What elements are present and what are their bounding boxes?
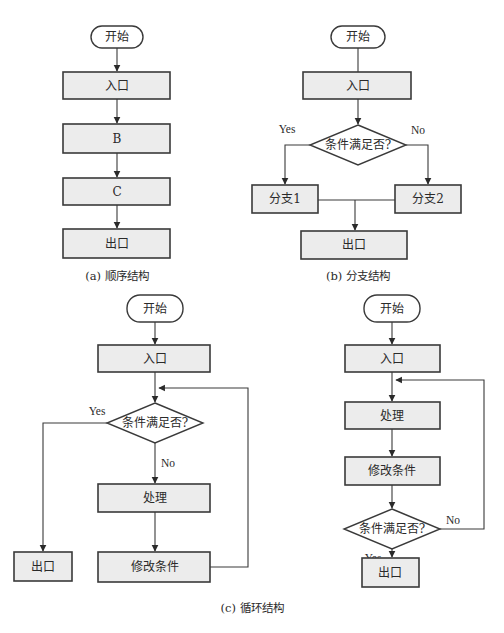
entry-label: 入口	[105, 79, 129, 93]
branch-diagram: 开始 入口 条件满足否? Yes No 分支1 分支2 出口 (b) 分支结构	[252, 26, 461, 283]
exit-label: 出口	[105, 237, 129, 251]
entry-label: 入口	[143, 352, 167, 366]
yes-label: Yes	[89, 405, 106, 417]
caption-sequence: (a) 顺序结构	[85, 269, 149, 283]
entry-label: 入口	[380, 352, 404, 366]
start-label: 开始	[380, 302, 404, 316]
sequence-diagram: 开始 入口 B C 出口 (a) 顺序结构	[63, 26, 170, 283]
process-label: 处理	[143, 491, 167, 505]
step-c-label: C	[112, 185, 121, 199]
entry-label: 入口	[346, 79, 370, 93]
condition-label: 条件满足否?	[359, 522, 425, 536]
condition-label: 条件满足否?	[122, 416, 188, 430]
step-b-label: B	[113, 132, 122, 146]
caption-loop: (c) 循环结构	[220, 601, 283, 615]
branch1-label: 分支1	[269, 192, 301, 206]
loop-while-diagram: 开始 入口 条件满足否? Yes No 处理 修改条件 出口	[14, 295, 248, 582]
start-label: 开始	[143, 302, 167, 316]
modify-label: 修改条件	[131, 559, 179, 574]
flowchart-canvas: 开始 入口 B C 出口 (a) 顺序结构 开始 入口 条件满足否? Yes N…	[0, 0, 504, 633]
exit-label: 出口	[31, 560, 55, 574]
exit-label: 出口	[378, 566, 402, 580]
start-label: 开始	[346, 30, 370, 44]
no-arrow	[406, 145, 428, 184]
no-label: No	[446, 514, 460, 526]
yes-label: Yes	[279, 123, 296, 135]
loop-do-while-diagram: 开始 入口 处理 修改条件 条件满足否? No Yes 出口	[344, 295, 484, 587]
modify-label: 修改条件	[368, 463, 416, 478]
start-label: 开始	[105, 30, 129, 44]
exit-label: 出口	[342, 238, 366, 252]
condition-label: 条件满足否?	[325, 138, 391, 152]
no-label: No	[161, 457, 175, 469]
caption-branch: (b) 分支结构	[326, 269, 390, 283]
yes-arrow	[285, 145, 310, 184]
branch2-label: 分支2	[412, 192, 444, 206]
no-label: No	[411, 124, 425, 136]
process-label: 处理	[380, 409, 404, 423]
